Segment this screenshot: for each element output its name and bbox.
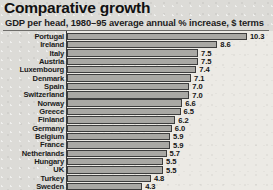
- chart-figure: Comparative growth GDP per head, 1980–95…: [0, 0, 273, 190]
- chart-title: Comparative growth: [4, 0, 150, 17]
- category-label: Sweden: [36, 182, 64, 190]
- bar: [67, 183, 142, 190]
- plot-area: Portugal10.3Ireland8.6Italy7.5Austria7.5…: [0, 31, 273, 190]
- bar-row: Sweden4.3: [0, 182, 273, 190]
- chart-subtitle: GDP per head, 1980–95 average annual % i…: [5, 17, 264, 28]
- bar-value-label: 4.3: [145, 182, 155, 190]
